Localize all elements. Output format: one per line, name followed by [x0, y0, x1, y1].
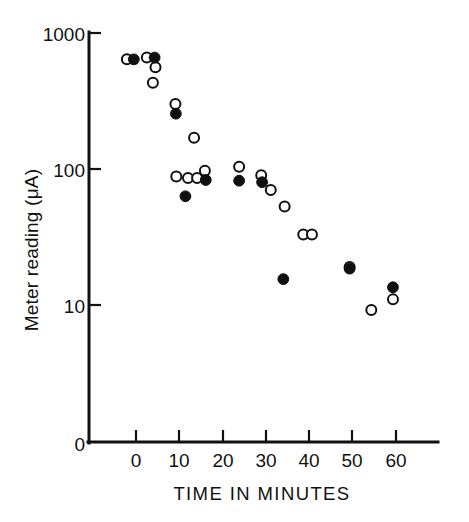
data-point-filled — [180, 191, 191, 202]
data-point-filled — [149, 52, 160, 63]
data-point-open — [151, 62, 161, 72]
x-tick-label-60: 60 — [385, 450, 406, 471]
y-axis: 1000 100 10 0 — [43, 24, 101, 455]
data-point-filled — [344, 263, 355, 274]
x-tick-label-20: 20 — [212, 450, 233, 471]
data-point-filled — [278, 274, 289, 285]
y-axis-title: Meter reading (μA) — [21, 169, 42, 331]
y-tick-label-10: 10 — [64, 296, 85, 317]
data-point-open — [366, 305, 376, 315]
x-tick-label-10: 10 — [168, 450, 189, 471]
data-point-filled — [257, 177, 268, 188]
y-tick-label-1000: 1000 — [43, 24, 85, 45]
data-point-open — [280, 202, 290, 212]
x-axis-title: TIME IN MINUTES — [173, 483, 350, 504]
x-axis: 0 10 20 30 40 50 60 — [88, 430, 438, 471]
x-tick-label-30: 30 — [255, 450, 276, 471]
y-tick-label-100: 100 — [53, 160, 85, 181]
y-tick-label-0: 0 — [74, 434, 85, 455]
data-point-filled — [234, 175, 245, 186]
data-point-open — [170, 99, 180, 109]
data-point-open — [307, 229, 317, 239]
data-points-layer — [122, 52, 398, 315]
chart-canvas: 1000 100 10 0 0 10 20 30 40 50 60 TIME I… — [0, 0, 469, 522]
data-point-open — [388, 294, 398, 304]
data-point-filled — [200, 175, 211, 186]
data-point-open — [234, 162, 244, 172]
scatter-chart-figure: 1000 100 10 0 0 10 20 30 40 50 60 TIME I… — [0, 0, 469, 522]
data-point-open — [266, 185, 276, 195]
x-tick-label-50: 50 — [341, 450, 362, 471]
data-point-filled — [170, 108, 181, 119]
data-point-filled — [388, 282, 399, 293]
x-tick-label-0: 0 — [131, 450, 142, 471]
x-tick-label-40: 40 — [298, 450, 319, 471]
data-point-open — [148, 78, 158, 88]
data-point-open — [189, 133, 199, 143]
data-point-filled — [128, 54, 139, 65]
data-point-open — [171, 172, 181, 182]
